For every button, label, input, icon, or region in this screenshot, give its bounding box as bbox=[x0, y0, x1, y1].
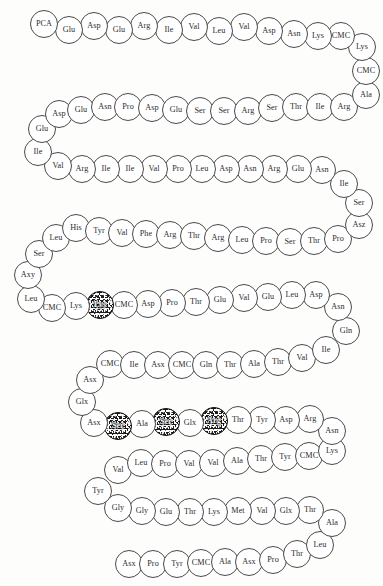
residue-circle: Tyr bbox=[84, 477, 112, 505]
residue-circle: Arg bbox=[68, 155, 96, 183]
residue-circle: Glu bbox=[284, 155, 312, 183]
residue-circle: Arg bbox=[200, 407, 228, 435]
protein-sequence-diagram: PCAGluAspGluArgIleValLeuValAspAsnLysCMCL… bbox=[0, 0, 383, 586]
residue-circle: Arg bbox=[130, 12, 158, 40]
residue-circle: Lys bbox=[86, 291, 114, 319]
residue-circle: Tyr bbox=[248, 406, 276, 434]
residue-circle: Lys bbox=[200, 498, 228, 526]
residue-circle: Glu bbox=[152, 498, 180, 526]
residue-circle: Val bbox=[248, 497, 276, 525]
residue-circle: Thr bbox=[296, 496, 324, 524]
residue-circle: Asn bbox=[280, 20, 308, 48]
residue-circle: CMC bbox=[110, 291, 138, 319]
residue-circle: Val bbox=[230, 13, 258, 41]
residue-circle: Leu bbox=[278, 281, 306, 309]
residue-circle: Ile bbox=[92, 155, 120, 183]
residue-circle: Asp bbox=[212, 155, 240, 183]
residue-circle: Leu bbox=[205, 17, 233, 45]
residue-circle: Met bbox=[224, 497, 252, 525]
residue-circle: Arg bbox=[260, 155, 288, 183]
residue-circle: Ala bbox=[352, 81, 380, 109]
residue-circle: Lys bbox=[62, 292, 90, 320]
residue-circle: Glx bbox=[272, 497, 300, 525]
residue-circle: Val bbox=[180, 13, 208, 41]
residue-circle: Ala bbox=[128, 410, 156, 438]
residue-circle: Pro bbox=[158, 289, 186, 317]
residue-circle: CMC bbox=[352, 57, 380, 85]
residue-circle: Asn bbox=[236, 155, 264, 183]
residue-circle: Glu bbox=[105, 16, 133, 44]
residue-circle: Leu bbox=[188, 155, 216, 183]
residue-circle: Ile bbox=[155, 16, 183, 44]
residue-circle: Val bbox=[140, 155, 168, 183]
residue-circle: Arg bbox=[296, 405, 324, 433]
residue-circle: Glu bbox=[206, 286, 234, 314]
residue-circle: Ser bbox=[104, 412, 132, 440]
residue-circle: Asp bbox=[272, 406, 300, 434]
residue-circle: Asn bbox=[308, 156, 336, 184]
residue-circle: Glx bbox=[176, 409, 204, 437]
residue-circle: Asp bbox=[255, 17, 283, 45]
residue-circle: Thr bbox=[224, 406, 252, 434]
residue-circle: Thr bbox=[182, 288, 210, 316]
residue-circle: Asp bbox=[80, 12, 108, 40]
residue-circle: PCA bbox=[30, 10, 58, 38]
residue-circle: Val bbox=[230, 284, 258, 312]
residue-circle: Glu bbox=[254, 283, 282, 311]
residue-circle: Ile bbox=[116, 155, 144, 183]
residue-circle: Lys bbox=[304, 22, 332, 50]
residue-circle: Gln bbox=[332, 317, 360, 345]
residue-circle: Asp bbox=[134, 290, 162, 318]
residue-circle: Gly bbox=[128, 497, 156, 525]
residue-circle: Thr bbox=[176, 498, 204, 526]
residue-circle: Ser bbox=[152, 408, 180, 436]
residue-circle: Asp bbox=[302, 281, 330, 309]
residue-circle: Pro bbox=[164, 155, 192, 183]
residue-circle: Leu bbox=[17, 285, 45, 313]
residue-circle: Glu bbox=[55, 16, 83, 44]
